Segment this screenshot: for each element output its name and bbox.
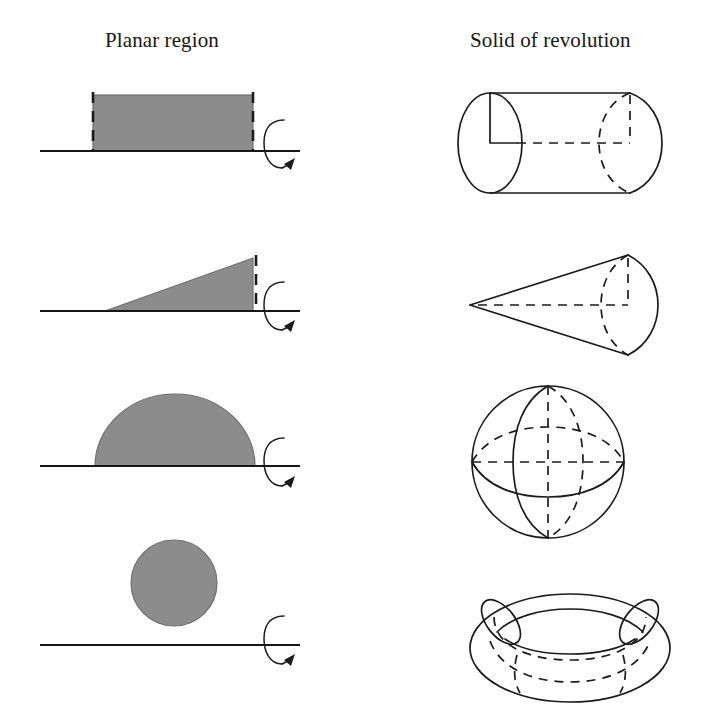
row-4-solid-torus <box>470 593 670 702</box>
revolve-arrow-row-4 <box>264 616 295 666</box>
torus-hidden-left-tube-dashed <box>515 655 520 693</box>
cone-upper-slant-line <box>470 255 628 305</box>
revolve-arrow-row-3 <box>264 438 295 488</box>
revolve-arrow-row-2 <box>264 282 295 332</box>
row-1-planar-rectangle <box>40 92 300 170</box>
figure-canvas <box>0 0 721 727</box>
cone-lower-slant-line <box>470 305 628 355</box>
solids-of-revolution-figure: Planar region Solid of revolution <box>0 0 721 727</box>
cylinder-left-radius-line <box>490 93 517 143</box>
row-3-planar-semicircle <box>40 394 300 488</box>
column-header-solid-of-revolution: Solid of revolution <box>470 28 631 53</box>
row-4-planar-circle <box>40 540 300 666</box>
row-2-planar-triangle <box>40 255 300 332</box>
row-1-solid-cylinder <box>458 93 662 193</box>
semicircle-region-fill <box>95 394 255 466</box>
torus-outer-ellipse <box>470 594 670 702</box>
rectangle-region-fill <box>93 95 253 151</box>
cone-base-front-arc <box>628 255 658 355</box>
row-3-solid-sphere <box>472 386 624 538</box>
cylinder-right-front-arc <box>630 93 662 193</box>
torus-inner-hole-bottom-arc <box>505 639 635 654</box>
revolve-arrow-row-1 <box>264 120 295 170</box>
torus-hidden-right-tube-dashed <box>620 655 625 693</box>
column-header-planar-region: Planar region <box>105 28 219 53</box>
row-2-solid-cone <box>470 255 658 355</box>
